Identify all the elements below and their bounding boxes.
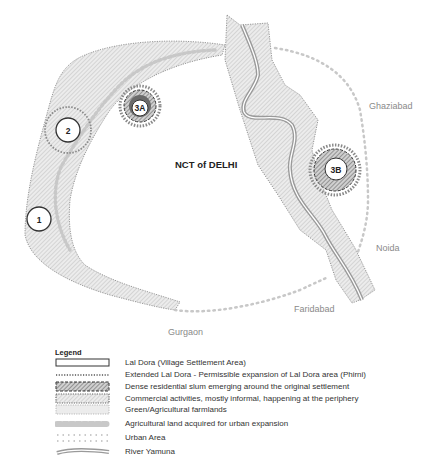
place-label-noida: Noida: [376, 243, 400, 253]
legend-label: Green/Agricultural farmlands: [125, 404, 227, 416]
urban-area-swatch-icon: [55, 432, 111, 444]
extended-lal-dora-swatch-icon: [55, 369, 111, 381]
legend-item-urban-area: Urban Area: [55, 432, 425, 444]
settlement-1-label: 1: [37, 215, 42, 225]
settlement-3a-label: 3A: [135, 103, 146, 113]
settlement-3b-label: 3B: [331, 165, 342, 175]
legend-title: Legend: [55, 348, 82, 357]
legend-label: River Yamuna: [125, 446, 175, 458]
region-label-nct-delhi: NCT of DELHI: [175, 159, 237, 170]
legend-label: Lal Dora (Village Settlement Area): [125, 357, 246, 369]
legend-item-extended-lal-dora: Extended Lal Dora - Permissible expansio…: [55, 369, 425, 381]
legend-label: Extended Lal Dora - Permissible expansio…: [125, 369, 366, 381]
legend-item-lal-dora: Lal Dora (Village Settlement Area): [55, 357, 425, 369]
farmland-swatch-icon: [55, 404, 111, 416]
lal-dora-swatch-icon: [55, 357, 111, 369]
dense-slum-swatch-icon: [55, 381, 111, 393]
legend-label: Urban Area: [125, 432, 165, 444]
delhi-map: 3A 3B 2 1: [0, 0, 428, 340]
settlement-2-label: 2: [66, 126, 71, 136]
acquired-land-swatch-icon: [55, 418, 111, 430]
river-swatch-icon: [55, 446, 111, 458]
legend-item-acquired-land: Agricultural land acquired for urban exp…: [55, 418, 425, 430]
legend-label: Dense residential slum emerging around t…: [125, 381, 349, 393]
legend-label: Agricultural land acquired for urban exp…: [125, 418, 288, 430]
place-label-faridabad: Faridabad: [294, 304, 335, 314]
place-label-ghaziabad: Ghaziabad: [369, 101, 413, 111]
legend-item-dense-slum: Dense residential slum emerging around t…: [55, 381, 425, 393]
place-label-gurgaon: Gurgaon: [168, 327, 203, 337]
legend-item-river: River Yamuna: [55, 446, 425, 458]
legend-item-farmland: Green/Agricultural farmlands: [55, 404, 425, 416]
